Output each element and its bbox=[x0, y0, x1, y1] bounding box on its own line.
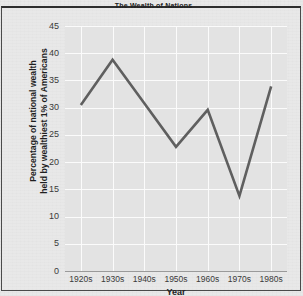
x-tick-label: 1980s bbox=[251, 274, 291, 284]
x-axis-title: Year bbox=[65, 287, 287, 296]
y-tick-label: 0 bbox=[35, 267, 59, 276]
y-axis-title-line-1: Percentage of national wealth bbox=[28, 6, 39, 236]
x-axis-line bbox=[65, 271, 287, 272]
data-series-svg bbox=[65, 26, 287, 271]
data-line-wealth-share bbox=[81, 60, 271, 196]
y-axis-title: Percentage of national wealth held by we… bbox=[22, 6, 56, 236]
y-tick-label: 5 bbox=[35, 239, 59, 248]
y-axis-title-line-2: held by wealthiest 1% of Americans bbox=[39, 6, 50, 236]
plot-area bbox=[65, 26, 287, 271]
figure-frame: The Wealth of Nations 05 bbox=[1, 6, 301, 291]
figure-page: The Wealth of Nations 05 bbox=[0, 0, 303, 296]
